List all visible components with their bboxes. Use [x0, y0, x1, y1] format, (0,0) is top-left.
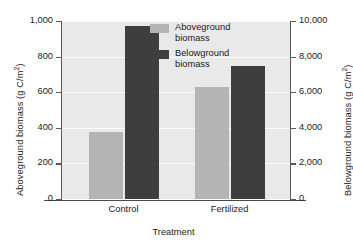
right-axis-title-text: Belowground biomass (g C/m [343, 71, 353, 196]
legend-label-belowground-line2: biomass [175, 59, 210, 69]
legend-label-aboveground-line2: biomass [175, 33, 210, 43]
legend-item-belowground: Belowground biomass [150, 48, 230, 70]
bar-belowground-fertilized [231, 66, 265, 199]
left-axis-tick-label: 0 [48, 194, 53, 203]
legend-swatch-belowground-icon [150, 50, 169, 59]
x-axis-title: Treatment [0, 227, 347, 237]
right-axis-spine [290, 21, 291, 200]
left-axis-tick [56, 92, 61, 93]
bar-aboveground-fertilized [195, 87, 229, 199]
legend-label-belowground-line1: Belowground [175, 48, 229, 58]
right-axis-tick [291, 163, 296, 164]
bar-aboveground-control [89, 132, 123, 199]
left-axis-tick [56, 57, 61, 58]
left-axis-title: Aboveground biomass (g C/m2) [13, 63, 25, 196]
left-axis-spine [61, 21, 62, 200]
left-axis-tick [56, 128, 61, 129]
left-axis-tick [56, 199, 61, 200]
left-axis-tick [56, 163, 61, 164]
right-axis-tick-label: 4,000 [299, 123, 322, 132]
x-axis-spine [44, 200, 306, 201]
x-tick-label-fertilized: Fertilized [180, 204, 280, 214]
right-axis-tick-label: 8,000 [299, 52, 322, 61]
right-axis-title: Belowground biomass (g C/m2) [341, 64, 353, 196]
right-axis-tick-label: 2,000 [299, 158, 322, 167]
right-axis-tick [291, 128, 296, 129]
chart-legend: Aboveground biomass Belowground biomass [150, 22, 230, 70]
right-axis-tick-label: 10,000 [299, 16, 327, 25]
left-axis-tick [56, 21, 61, 22]
right-axis-tick [291, 57, 296, 58]
legend-label-aboveground: Aboveground biomass [175, 22, 230, 44]
legend-label-aboveground-line1: Aboveground [175, 22, 230, 32]
x-tick-label-control: Control [74, 204, 174, 214]
right-axis-tick [291, 21, 296, 22]
right-axis-tick [291, 92, 296, 93]
legend-label-belowground: Belowground biomass [175, 48, 229, 70]
left-axis-tick-label: 600 [37, 87, 53, 96]
left-axis-title-suffix: ) [15, 63, 25, 66]
right-axis-tick-label: 0 [299, 194, 304, 203]
left-axis-tick-label: 400 [37, 123, 53, 132]
left-axis-tick-label: 800 [37, 52, 53, 61]
legend-item-aboveground: Aboveground biomass [150, 22, 230, 44]
right-axis-tick-label: 6,000 [299, 87, 322, 96]
right-axis-title-exponent: 2 [341, 68, 348, 72]
left-axis-title-text: Aboveground biomass (g C/m [15, 70, 25, 196]
left-axis-tick-label: 1,000 [30, 16, 53, 25]
left-axis-title-exponent: 2 [13, 67, 20, 71]
right-axis-title-suffix: ) [343, 64, 353, 67]
legend-swatch-aboveground-icon [150, 24, 169, 33]
left-axis-tick-label: 200 [37, 158, 53, 167]
right-axis-tick [291, 199, 296, 200]
